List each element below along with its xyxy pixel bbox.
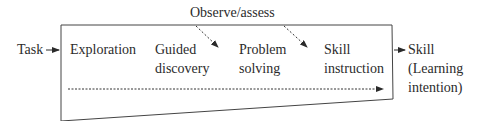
stage-exploration: Exploration — [70, 40, 136, 59]
skill-output-label: Skill (Learning intention) — [408, 40, 463, 97]
stage-guided-discovery: Guided discovery — [155, 40, 209, 78]
stage-skill-instruction: Skill instruction — [324, 40, 384, 78]
task-label: Task — [17, 40, 43, 59]
stage-problem-solving: Problem solving — [239, 40, 286, 78]
observe-assess-label: Observe/assess — [190, 3, 275, 22]
observe-arrow-2 — [284, 26, 307, 47]
